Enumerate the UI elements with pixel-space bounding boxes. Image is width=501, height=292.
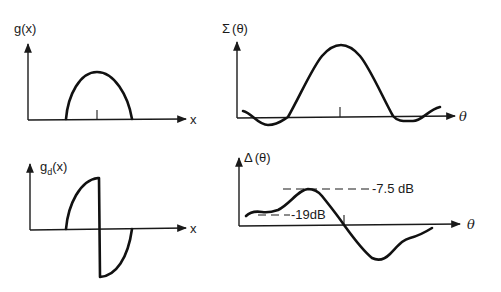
ylabel-g-x: g(x) (14, 21, 36, 36)
panel-aperture-sum: g(x) x (14, 21, 197, 127)
difference-aperture-curve (66, 178, 132, 277)
ylabel-gd-x: gd(x) (40, 159, 67, 177)
aperture-curve (66, 72, 132, 119)
x-axis (239, 224, 460, 226)
x-axis (30, 228, 186, 230)
ylabel-delta-theta: Δ(θ) (244, 150, 271, 165)
panel-pattern-difference: Δ(θ) θ -7.5 dB -19dB (239, 150, 475, 260)
x-axis (28, 119, 186, 120)
panel-aperture-difference: gd(x) x (30, 159, 197, 277)
panel-pattern-sum: Σ(θ) θ (222, 21, 467, 125)
xlabel-theta: θ (459, 109, 467, 124)
xlabel-x: x (190, 112, 197, 127)
peak-level-label: -7.5 dB (372, 181, 414, 196)
sum-pattern-curve (243, 45, 440, 125)
monopulse-figure: g(x) x Σ(θ) θ gd(x) x Δ(θ) θ -7.5 dB -19… (0, 0, 501, 292)
ylabel-sigma-theta: Σ(θ) (222, 21, 248, 36)
xlabel-theta: θ (467, 217, 475, 232)
xlabel-x: x (190, 221, 197, 236)
sidelobe-level-label: -19dB (291, 207, 326, 222)
